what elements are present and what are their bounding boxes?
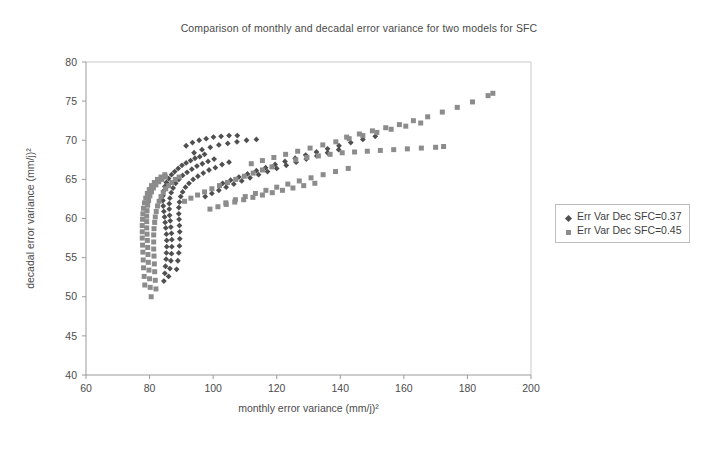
data-point xyxy=(168,224,174,230)
data-point xyxy=(211,156,217,162)
data-point xyxy=(285,182,290,187)
x-tick-label: 120 xyxy=(268,382,286,394)
data-point xyxy=(141,257,146,262)
data-point xyxy=(152,269,157,274)
data-point xyxy=(195,193,200,198)
data-point xyxy=(290,185,295,190)
x-tick-label: 100 xyxy=(204,382,222,394)
data-point xyxy=(164,238,170,244)
data-point xyxy=(352,149,357,154)
data-point xyxy=(301,183,306,188)
data-point xyxy=(148,285,153,290)
data-point xyxy=(206,167,212,173)
x-tick-label: 60 xyxy=(80,382,92,394)
data-point xyxy=(143,196,148,201)
data-point xyxy=(155,203,160,208)
data-point xyxy=(365,149,370,154)
data-point xyxy=(174,266,180,272)
y-axis-title: decadal error variance (mm/j)² xyxy=(24,148,36,289)
data-point xyxy=(152,220,157,225)
legend-label-series-2: Err Var Dec SFC=0.45 xyxy=(577,223,682,237)
y-tick-label: 75 xyxy=(65,95,77,107)
data-point xyxy=(199,147,205,153)
data-point xyxy=(169,244,175,250)
data-point xyxy=(223,184,229,190)
data-point xyxy=(151,247,156,252)
data-point xyxy=(202,189,207,194)
data-point xyxy=(151,232,156,237)
data-point xyxy=(490,91,495,96)
data-point xyxy=(216,142,222,148)
data-point xyxy=(188,196,193,201)
data-point xyxy=(226,133,232,139)
y-tick-label: 60 xyxy=(65,212,77,224)
data-point xyxy=(397,122,402,127)
data-point xyxy=(202,194,208,200)
data-point xyxy=(149,294,154,299)
data-point xyxy=(168,258,174,264)
data-point xyxy=(374,130,379,135)
data-point xyxy=(340,150,345,155)
data-point xyxy=(177,199,183,205)
data-point xyxy=(161,209,167,215)
data-point xyxy=(163,225,169,231)
data-point xyxy=(152,261,157,266)
data-point xyxy=(194,163,200,169)
data-point xyxy=(212,165,218,171)
data-point xyxy=(283,152,288,157)
data-point xyxy=(153,278,158,283)
x-tick-label: 160 xyxy=(395,382,413,394)
data-point xyxy=(207,207,212,212)
y-tick-label: 50 xyxy=(65,290,77,302)
data-point xyxy=(244,137,250,143)
data-point xyxy=(140,236,145,241)
data-point xyxy=(140,211,145,216)
data-point xyxy=(140,217,145,222)
data-point xyxy=(177,243,183,249)
data-point xyxy=(234,139,240,145)
data-point xyxy=(274,185,279,190)
data-point xyxy=(225,140,231,146)
y-tick-label: 70 xyxy=(65,134,77,146)
data-point xyxy=(162,172,167,177)
data-point xyxy=(304,155,309,160)
x-tick-label: 200 xyxy=(522,382,540,394)
data-point xyxy=(152,226,157,231)
data-point xyxy=(308,146,313,151)
data-point xyxy=(190,176,196,182)
data-point xyxy=(140,250,145,255)
data-point xyxy=(164,231,170,237)
data-point xyxy=(486,93,491,98)
data-point xyxy=(176,211,182,217)
square-marker-icon xyxy=(562,221,574,239)
data-point xyxy=(391,147,396,152)
data-point xyxy=(470,99,475,104)
data-point xyxy=(309,175,314,180)
data-point xyxy=(203,136,209,142)
y-tick-label: 80 xyxy=(65,56,77,68)
data-point xyxy=(161,278,167,284)
data-point xyxy=(253,137,259,143)
data-point xyxy=(251,171,256,176)
data-point xyxy=(199,161,205,167)
data-point xyxy=(141,206,146,211)
data-point xyxy=(166,201,172,207)
y-tick-label: 55 xyxy=(65,251,77,263)
data-point xyxy=(209,186,214,191)
data-point xyxy=(196,137,202,143)
data-point xyxy=(357,131,362,136)
data-point xyxy=(260,193,265,198)
data-point xyxy=(433,145,438,150)
legend-label-series-1: Err Var Dec SFC=0.37 xyxy=(577,209,682,223)
data-point xyxy=(316,153,321,158)
data-point xyxy=(232,200,237,205)
data-point xyxy=(333,169,338,174)
data-point xyxy=(146,268,151,273)
data-point xyxy=(140,229,145,234)
data-point xyxy=(162,214,168,220)
data-point xyxy=(176,216,182,222)
data-point xyxy=(425,114,430,119)
x-tick-label: 180 xyxy=(459,382,477,394)
data-point xyxy=(231,181,237,187)
data-point xyxy=(260,167,265,172)
